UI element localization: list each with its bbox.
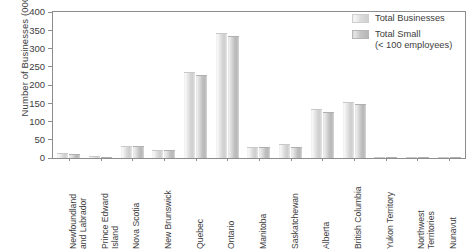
bar-group [85, 12, 117, 158]
bar-total-small [196, 75, 207, 158]
x-tick-mark [307, 158, 339, 162]
y-tick-label: 300 [29, 44, 48, 54]
x-tick-mark [275, 158, 307, 162]
x-label-cell: British Columbia [338, 163, 370, 251]
x-label-cell: Nunavut [433, 163, 465, 251]
y-tick-label: 150 [29, 99, 48, 109]
y-tick-label: 50 [34, 135, 48, 145]
bar-chart: Number of Businesses (000's) 05010015020… [0, 0, 476, 252]
x-axis-label: Quebec [196, 163, 206, 249]
bar-total-small [164, 150, 175, 158]
y-tick-label: 0 [40, 153, 48, 163]
bar-group [243, 12, 275, 158]
legend-swatch-total-businesses [352, 14, 369, 23]
y-tick-label: 250 [29, 62, 48, 72]
x-label-cell: Prince EdwardIsland [85, 163, 117, 251]
x-axis-label: British Columbia [354, 163, 364, 249]
bar-total-small [259, 147, 270, 158]
bar-total-businesses [311, 109, 322, 158]
legend-swatch-total-small [352, 30, 369, 39]
bar-total-businesses [184, 72, 195, 158]
x-label-cell: NorthwestTerritories [402, 163, 434, 251]
x-label-cell: Saskatchewan [275, 163, 307, 251]
bar-group [53, 12, 85, 158]
bar-group [307, 12, 339, 158]
bar-group [148, 12, 180, 158]
y-tick-label: 350 [29, 26, 48, 36]
x-axis-label: Saskatchewan [291, 163, 301, 249]
x-axis-label: Manitoba [259, 163, 269, 249]
x-tick-mark [370, 158, 402, 162]
y-tick-label: 400 [29, 7, 48, 17]
legend-label: Total Small(< 100 employees) [375, 29, 452, 51]
x-label-cell: Alberta [307, 163, 339, 251]
x-axis-ticks [53, 158, 465, 162]
y-axis-ticks: 050100150200250300350400 [0, 11, 52, 159]
x-label-cell: New Brunswick [148, 163, 180, 251]
x-tick-mark [180, 158, 212, 162]
bar-total-businesses [216, 33, 227, 158]
x-label-cell: Manitoba [243, 163, 275, 251]
bar-total-small [291, 147, 302, 158]
x-tick-mark [243, 158, 275, 162]
y-tick-label: 100 [29, 117, 48, 127]
legend-label: Total Businesses [375, 13, 445, 24]
x-axis-label: Nunavut [449, 163, 459, 249]
bar-total-small [323, 112, 334, 158]
x-axis-label: Yukon Territory [386, 163, 396, 249]
bar-total-businesses [121, 146, 132, 158]
bar-total-businesses [343, 102, 354, 158]
x-tick-mark [116, 158, 148, 162]
legend-item: Total Small(< 100 employees) [352, 29, 472, 51]
legend-item: Total Businesses [352, 13, 472, 24]
x-label-cell: Nova Scotia [116, 163, 148, 251]
x-tick-mark [338, 158, 370, 162]
x-axis-label: Ontario [227, 163, 237, 249]
x-axis-labels: Newfoundlandand LabradorPrince EdwardIsl… [53, 163, 465, 251]
x-axis-label: Alberta [322, 163, 332, 249]
bar-total-businesses [279, 144, 290, 158]
y-tick-label: 200 [29, 80, 48, 90]
bar-total-businesses [247, 147, 258, 158]
x-label-cell: Ontario [211, 163, 243, 251]
x-axis-label: New Brunswick [164, 163, 174, 249]
bar-total-small [133, 146, 144, 158]
x-tick-mark [402, 158, 434, 162]
chart-legend: Total BusinessesTotal Small(< 100 employ… [352, 13, 472, 56]
x-tick-mark [148, 158, 180, 162]
bar-group [275, 12, 307, 158]
bar-total-small [355, 104, 366, 158]
bar-group [116, 12, 148, 158]
bar-group [180, 12, 212, 158]
x-tick-mark [85, 158, 117, 162]
bar-total-businesses [152, 150, 163, 158]
x-tick-mark [211, 158, 243, 162]
x-tick-mark [433, 158, 465, 162]
x-label-cell: Newfoundlandand Labrador [53, 163, 85, 251]
x-axis-label: Nova Scotia [132, 163, 142, 249]
bar-group [211, 12, 243, 158]
x-label-cell: Quebec [180, 163, 212, 251]
x-label-cell: Yukon Territory [370, 163, 402, 251]
x-tick-mark [53, 158, 85, 162]
bar-total-small [228, 36, 239, 158]
